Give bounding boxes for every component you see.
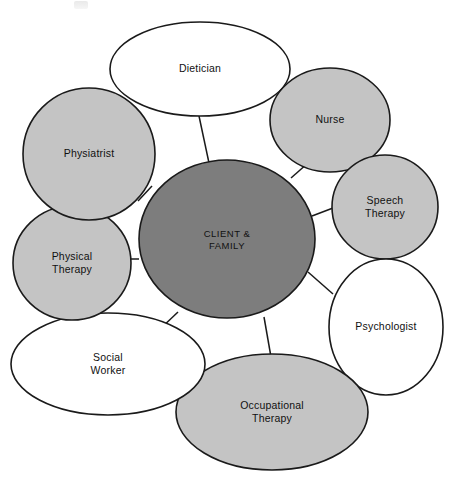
page-artifact-mark: [74, 1, 88, 9]
node-label-line1-speech-therapy: Speech: [367, 194, 404, 206]
node-label-line1-nurse: Nurse: [315, 113, 344, 125]
connector-hub-to-dietician: [199, 116, 209, 163]
node-label-line1-social-worker: Social: [93, 351, 123, 363]
node-label-line1-physical-therapy: Physical: [52, 250, 93, 262]
node-label-physiatrist: Physiatrist: [64, 147, 115, 159]
node-label-line1-dietician: Dietician: [179, 62, 221, 74]
node-label-nurse: Nurse: [315, 113, 344, 125]
node-label-physical-therapy: PhysicalTherapy: [52, 250, 93, 275]
node-label-dietician: Dietician: [179, 62, 221, 74]
node-label-line2-occupational-therapy: Therapy: [252, 412, 292, 424]
node-label-line1-psychologist: Psychologist: [355, 320, 416, 332]
connector-hub-to-psychologist: [308, 272, 333, 294]
node-label-client-family: CLIENT &FAMILY: [204, 228, 251, 251]
hub-layer: CLIENT &FAMILY: [139, 160, 315, 318]
node-label-line2-speech-therapy: Therapy: [365, 207, 405, 219]
team-relationship-diagram: DieticianNurseSpeechTherapyPsychologistO…: [0, 0, 459, 487]
node-label-speech-therapy: SpeechTherapy: [365, 194, 405, 219]
node-label-line2-client-family: FAMILY: [209, 240, 245, 251]
connector-hub-to-speech-therapy: [312, 208, 333, 216]
node-label-line1-occupational-therapy: Occupational: [240, 399, 304, 411]
diagram-canvas: DieticianNurseSpeechTherapyPsychologistO…: [0, 0, 459, 487]
node-label-line1-physiatrist: Physiatrist: [64, 147, 115, 159]
node-label-line2-social-worker: Worker: [91, 364, 126, 376]
node-label-social-worker: SocialWorker: [91, 351, 126, 376]
node-label-line1-client-family: CLIENT &: [204, 228, 251, 239]
node-label-psychologist: Psychologist: [355, 320, 416, 332]
node-label-line2-physical-therapy: Therapy: [52, 263, 92, 275]
connector-hub-to-occupational-therapy: [264, 317, 271, 357]
